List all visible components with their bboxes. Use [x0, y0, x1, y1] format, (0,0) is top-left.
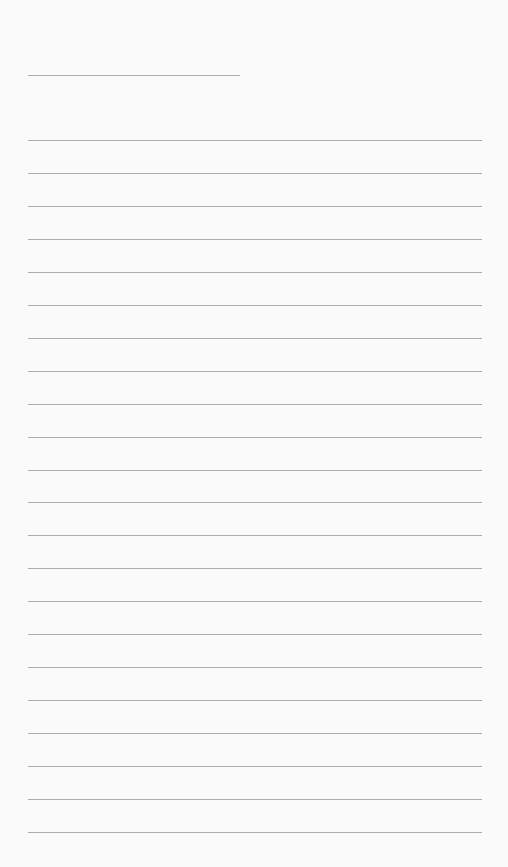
rule-line — [28, 700, 482, 701]
rule-line — [28, 832, 482, 833]
lined-paper-page — [0, 0, 508, 867]
rule-line — [28, 272, 482, 273]
rule-line — [28, 470, 482, 471]
rule-line — [28, 667, 482, 668]
rule-line — [28, 173, 482, 174]
title-line — [28, 75, 240, 76]
rule-line — [28, 601, 482, 602]
rule-line — [28, 437, 482, 438]
rule-line — [28, 404, 482, 405]
rule-line — [28, 140, 482, 141]
rule-line — [28, 239, 482, 240]
rule-line — [28, 568, 482, 569]
rule-line — [28, 733, 482, 734]
rule-line — [28, 338, 482, 339]
rule-line — [28, 766, 482, 767]
rule-line — [28, 535, 482, 536]
rule-line — [28, 502, 482, 503]
rule-line — [28, 305, 482, 306]
rule-line — [28, 799, 482, 800]
rule-line — [28, 206, 482, 207]
rule-line — [28, 371, 482, 372]
rule-line — [28, 634, 482, 635]
